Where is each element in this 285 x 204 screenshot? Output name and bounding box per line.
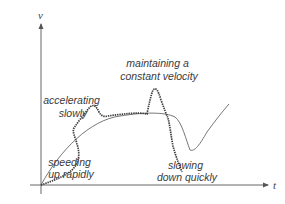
annotation-line: constant velocity <box>120 70 198 82</box>
annotation-speeding-up-rapidly: speeding up rapidly <box>48 156 94 180</box>
annotation-slowing-down-quickly: slowing down quickly <box>157 159 218 183</box>
annotation-line: accelerating <box>43 94 100 106</box>
annotation-line: maintaining a <box>126 57 189 69</box>
x-axis-label: t <box>273 179 277 191</box>
annotation-line: speeding <box>48 156 91 168</box>
y-axis-label: v <box>38 9 43 21</box>
annotation-line: down quickly <box>157 171 218 183</box>
annotation-maintaining-constant-velocity: maintaining a constant velocity <box>120 57 198 82</box>
annotation-line: up rapidly <box>48 168 94 180</box>
annotation-line: slowly <box>59 107 88 119</box>
velocity-time-diagram: v t accelerating slowly speeding up rapi… <box>0 0 285 204</box>
annotation-accelerating-slowly: accelerating slowly <box>43 94 103 119</box>
annotation-line: slowing <box>168 159 203 171</box>
